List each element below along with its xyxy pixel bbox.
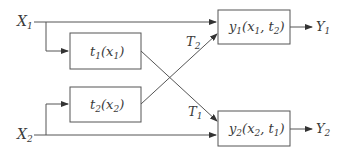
edge-t2-to-y1 — [141, 34, 217, 104]
box-t1-label: t1(x1) — [90, 44, 124, 61]
diagram-canvas: X1 X2 Y1 Y2 T2 T1 t1(x1) t2(x2) y1(x1, t… — [0, 0, 346, 158]
box-t2-label: t2(x2) — [90, 97, 124, 114]
label-T1: T1 — [188, 104, 202, 121]
edge-x1-to-t1 — [46, 22, 68, 51]
edge-x2-to-t2 — [46, 104, 68, 135]
label-X1: X1 — [16, 13, 33, 31]
edge-t1-to-y2 — [141, 51, 217, 121]
label-T2: T2 — [186, 34, 201, 51]
label-X2: X2 — [16, 126, 33, 144]
label-Y2: Y2 — [316, 121, 331, 138]
label-Y1: Y1 — [316, 19, 330, 36]
